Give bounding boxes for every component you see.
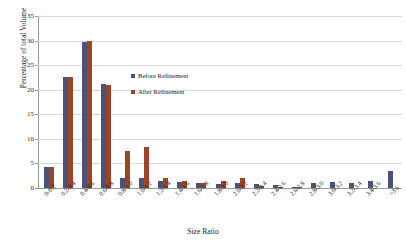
bar-group <box>192 16 211 188</box>
x-axis-tick: 3.2-3.4 <box>345 190 364 226</box>
x-axis-title: Size Ratio <box>0 227 406 236</box>
x-axis-tick: 2.8-3.0 <box>307 190 326 226</box>
legend-swatch-icon <box>131 90 135 94</box>
bar-group <box>96 16 115 188</box>
bar-group <box>249 16 268 188</box>
bar-group <box>383 16 402 188</box>
x-axis-tick: >3.6 <box>383 190 402 226</box>
bar-group <box>58 16 77 188</box>
bar-group <box>307 16 326 188</box>
bar <box>106 85 111 188</box>
bar-group <box>364 16 383 188</box>
y-axis-tick-label: 30 <box>27 37 34 45</box>
y-axis-tick-label: 35 <box>27 12 34 20</box>
x-axis-tick: 0.8-1.0 <box>115 190 134 226</box>
bar-group <box>287 16 306 188</box>
y-axis-tick-mark <box>35 163 38 164</box>
chart-legend: Before RefinementAfter Refinement <box>131 72 188 95</box>
x-axis-tick: 0.2-0.4 <box>58 190 77 226</box>
y-axis-tick-label: 0 <box>31 184 35 192</box>
bar-group <box>115 16 134 188</box>
x-axis-tick-labels: 0-0.20.2-0.40.4-0.60.6-0.80.8-1.01.0-1.2… <box>39 190 402 226</box>
bar-group <box>211 16 230 188</box>
legend-label: After Refinement <box>138 88 184 95</box>
legend-item: Before Refinement <box>131 72 188 79</box>
y-axis-tick-label: 5 <box>31 159 35 167</box>
x-axis-tick: 2.0-2.2 <box>230 190 249 226</box>
x-axis-tick: 1.2-1.4 <box>154 190 173 226</box>
x-axis-tick: 0.6-0.8 <box>96 190 115 226</box>
bar-group <box>230 16 249 188</box>
y-axis-tick-label: 10 <box>27 135 34 143</box>
y-axis-tick-mark <box>35 90 38 91</box>
y-axis-tick-mark <box>35 114 38 115</box>
y-axis-tick-label: 20 <box>27 86 34 94</box>
y-axis-tick-mark <box>35 139 38 140</box>
y-axis-tick-label: 25 <box>27 61 34 69</box>
bar-chart: Percentage of total Volume 0510152025303… <box>0 0 406 244</box>
legend-label: Before Refinement <box>138 72 188 79</box>
x-axis-tick: 2.6-2.8 <box>287 190 306 226</box>
x-axis-tick: 0.4-0.6 <box>77 190 96 226</box>
bar-group <box>173 16 192 188</box>
x-axis-tick: 2.2-2.4 <box>249 190 268 226</box>
bar-series-container <box>39 16 402 188</box>
x-axis-tick: 1.6-1.8 <box>192 190 211 226</box>
x-axis-tick: 1.0-1.2 <box>135 190 154 226</box>
bar-group <box>154 16 173 188</box>
y-axis-tick-label: 15 <box>27 110 34 118</box>
bar <box>388 171 393 188</box>
bar-group <box>39 16 58 188</box>
x-axis-tick: 3.4-3.6 <box>364 190 383 226</box>
x-axis-tick: 3.0-3.2 <box>326 190 345 226</box>
x-axis-tick: 1.8-2.0 <box>211 190 230 226</box>
bar <box>68 77 73 188</box>
x-axis-tick: 0-0.2 <box>39 190 58 226</box>
x-axis-tick: 1.4-1.6 <box>173 190 192 226</box>
bar-group <box>326 16 345 188</box>
bar-group <box>77 16 96 188</box>
x-axis-tick: 2.4-2.6 <box>268 190 287 226</box>
bar <box>87 41 92 188</box>
y-axis-tick-mark <box>35 16 38 17</box>
legend-swatch-icon <box>131 74 135 78</box>
bar-group <box>345 16 364 188</box>
bar-group <box>135 16 154 188</box>
legend-item: After Refinement <box>131 88 188 95</box>
plot-area: 05101520253035 <box>38 16 402 188</box>
y-axis-tick-mark <box>35 41 38 42</box>
y-axis-tick-mark <box>35 65 38 66</box>
bar-group <box>268 16 287 188</box>
